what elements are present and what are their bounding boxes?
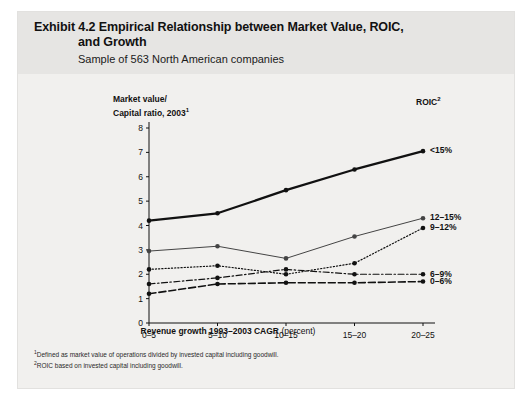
series-label: 12–15% <box>430 212 462 222</box>
y-tick-label: 3 <box>138 245 143 255</box>
y-tick-label: 1 <box>138 294 143 304</box>
series-3: 9–12% <box>147 222 457 276</box>
series-1: <15% <box>147 145 453 223</box>
data-point <box>147 249 152 254</box>
x-axis-title-bold: Revenue growth 1993–2003 CAGR <box>141 326 279 336</box>
chart-plot-area: Market value/ Capital ratio, 20031 ROIC2… <box>18 74 514 388</box>
data-point <box>421 272 426 277</box>
data-point <box>421 149 426 154</box>
data-point <box>147 218 152 223</box>
axes <box>149 122 435 323</box>
series-label: 9–12% <box>430 222 457 232</box>
series-label: <15% <box>430 145 452 155</box>
data-point <box>215 263 220 268</box>
chart-canvas: 0123456780–55–1010–1515–2020–25<15%12–15… <box>18 74 514 388</box>
data-point <box>215 276 220 281</box>
data-point <box>284 256 289 261</box>
data-point <box>284 188 289 193</box>
data-point <box>215 244 220 249</box>
y-tick-label: 7 <box>138 147 143 157</box>
y-tick-label: 4 <box>138 221 143 231</box>
footnote-1: 1Defined as market value of operations d… <box>34 348 279 359</box>
series-5: 0–6% <box>147 276 452 296</box>
data-point <box>352 261 357 266</box>
exhibit-card: Exhibit 4.2 Empirical Relationship betwe… <box>18 12 514 388</box>
footnotes: 1Defined as market value of operations d… <box>34 348 279 370</box>
footnote-2-text: ROIC based on invested capital including… <box>37 362 183 369</box>
y-tick-label: 8 <box>138 123 143 133</box>
exhibit-title-line1: Exhibit 4.2 Empirical Relationship betwe… <box>34 20 404 34</box>
footnote-1-text: Defined as market value of operations di… <box>37 351 279 358</box>
series-line <box>149 218 423 258</box>
data-point <box>147 267 152 272</box>
data-point <box>215 211 220 216</box>
x-axis-title: Revenue growth 1993–2003 CAGR (percent) <box>18 326 438 336</box>
exhibit-title-line2: and Growth <box>34 35 464 50</box>
data-point <box>284 280 289 285</box>
series-line <box>149 151 423 220</box>
data-point <box>284 267 289 272</box>
data-point <box>352 280 357 285</box>
data-point <box>421 216 426 221</box>
footnote-2: 2ROIC based on invested capital includin… <box>34 359 279 370</box>
exhibit-header-band: Exhibit 4.2 Empirical Relationship betwe… <box>18 12 514 74</box>
y-tick-label: 6 <box>138 172 143 182</box>
data-point <box>147 282 152 287</box>
y-tick-label: 5 <box>138 196 143 206</box>
data-point <box>284 272 289 277</box>
exhibit-title: Exhibit 4.2 Empirical Relationship betwe… <box>34 20 464 50</box>
series-label: 0–6% <box>430 276 452 286</box>
data-point <box>215 282 220 287</box>
data-point <box>421 279 426 284</box>
data-point <box>352 167 357 172</box>
exhibit-subtitle: Sample of 563 North American companies <box>78 53 284 65</box>
y-axis-ticks: 012345678 <box>138 123 149 328</box>
series-2: 12–15% <box>147 212 462 260</box>
data-point <box>352 234 357 239</box>
data-point <box>147 291 152 296</box>
y-tick-label: 2 <box>138 269 143 279</box>
data-point <box>352 272 357 277</box>
x-axis-title-unit: (percent) <box>281 326 315 336</box>
data-point <box>421 226 426 231</box>
